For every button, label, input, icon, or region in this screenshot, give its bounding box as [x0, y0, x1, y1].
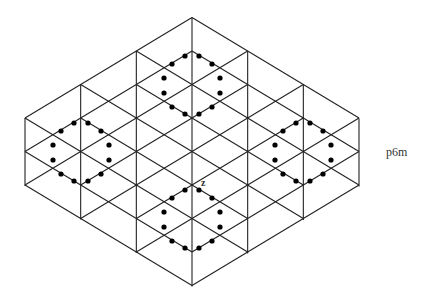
- motif-dot: [280, 171, 285, 176]
- motif-dot: [106, 157, 111, 162]
- motif-dot: [307, 120, 312, 125]
- motif-dot: [196, 111, 201, 116]
- motif-dot: [209, 61, 214, 66]
- motif-dot: [169, 61, 174, 66]
- motif-dot: [182, 53, 187, 58]
- motif-dot: [217, 209, 222, 214]
- motif-dot: [71, 178, 76, 183]
- motif-label: z: [201, 177, 205, 188]
- motif-dot: [182, 187, 187, 192]
- motif-dot: [293, 120, 298, 125]
- motif-dot: [328, 157, 333, 162]
- motif-dot: [161, 224, 166, 229]
- motif-dot: [50, 157, 55, 162]
- motif-dot: [182, 111, 187, 116]
- motif-dot: [209, 238, 214, 243]
- motif-dot: [217, 224, 222, 229]
- group-label: p6m: [386, 145, 407, 160]
- motif-dot: [307, 178, 312, 183]
- motif-dot: [71, 120, 76, 125]
- motif-dot: [169, 195, 174, 200]
- motif-dot: [98, 128, 103, 133]
- motif-dot: [98, 171, 103, 176]
- motif-dot: [272, 142, 277, 147]
- motif-dot: [58, 171, 63, 176]
- motif-dot: [85, 120, 90, 125]
- motif-dot: [58, 128, 63, 133]
- motif-dot: [320, 128, 325, 133]
- motif-dot: [209, 195, 214, 200]
- motif-dot: [182, 245, 187, 250]
- motif-dot: [209, 104, 214, 109]
- motif-dot: [50, 142, 55, 147]
- motif-dot: [217, 75, 222, 80]
- tiling-diagram: [0, 0, 425, 306]
- motif-dot: [196, 53, 201, 58]
- motif-dot: [106, 142, 111, 147]
- motif-dot: [161, 90, 166, 95]
- motif-dot: [272, 157, 277, 162]
- motif-dot: [196, 187, 201, 192]
- motif-dot: [328, 142, 333, 147]
- motif-dot: [320, 171, 325, 176]
- motif-dot: [217, 90, 222, 95]
- motif-dot: [85, 178, 90, 183]
- motif-dot: [169, 104, 174, 109]
- motif-dot: [169, 238, 174, 243]
- motif-dot: [196, 245, 201, 250]
- motif-dot: [280, 128, 285, 133]
- motif-dot: [293, 178, 298, 183]
- motif-dot: [161, 209, 166, 214]
- motif-dot: [161, 75, 166, 80]
